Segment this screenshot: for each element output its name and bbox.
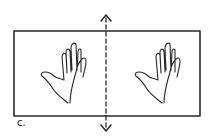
diagram-canvas [0,0,212,139]
right-hand-icon [135,43,180,103]
left-hand-icon [41,43,86,103]
figure-label: c. [17,117,26,128]
